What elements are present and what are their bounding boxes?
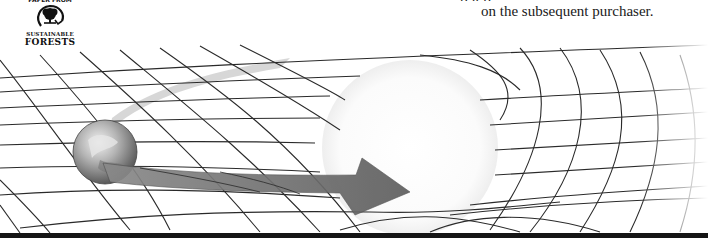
tree-in-circle-arrow-icon	[33, 4, 67, 30]
bottom-edge-band	[0, 233, 708, 238]
logo-line-2: FORESTS	[18, 38, 82, 47]
sustainable-forests-logo: PAPER FROM SUSTAINABLE FORESTS	[18, 0, 82, 48]
spacetime-illustration	[0, 0, 708, 238]
body-text-last-line: on the subsequent purchaser.	[481, 3, 653, 20]
body-text-cut-line: p g p	[460, 0, 708, 1]
logo-top-text: PAPER FROM	[18, 0, 82, 3]
